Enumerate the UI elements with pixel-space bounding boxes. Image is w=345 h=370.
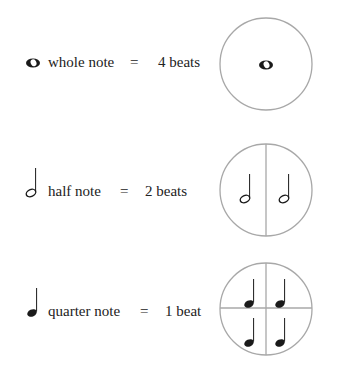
- beats-label: 1 beat: [165, 304, 201, 319]
- beats-label: 4 beats: [158, 55, 200, 70]
- quarter-note-in-circle-icon: [243, 318, 255, 348]
- note-name-label: quarter note: [48, 304, 120, 319]
- whole-note-in-circle-icon: [259, 60, 273, 69]
- equals-sign: =: [140, 304, 148, 319]
- half-note-in-circle-icon: [278, 174, 290, 204]
- half-note-in-circle-icon: [239, 174, 251, 204]
- note-name-label: half note: [48, 184, 101, 199]
- half-note-icon: [25, 168, 37, 198]
- quarter-note-icon: [26, 288, 38, 318]
- quarter-note-in-circle-icon: [243, 279, 255, 309]
- quarter-note-in-circle-icon: [274, 318, 286, 348]
- beats-label: 2 beats: [145, 184, 187, 199]
- equals-sign: =: [120, 184, 128, 199]
- quarter-note-in-circle-icon: [274, 279, 286, 309]
- equals-sign: =: [130, 55, 138, 70]
- note-name-label: whole note: [48, 55, 114, 70]
- whole-note-icon: [26, 58, 40, 67]
